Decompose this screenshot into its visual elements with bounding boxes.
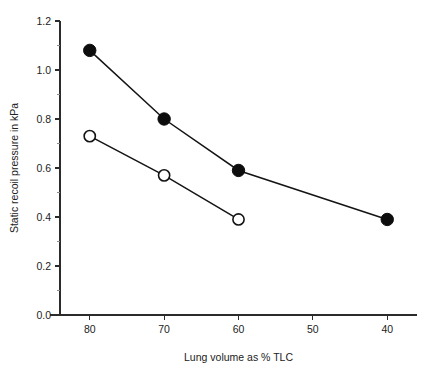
y-tick-label: 0.4: [36, 211, 51, 223]
x-tick-label: 70: [158, 323, 170, 335]
data-point-filled: [381, 213, 393, 225]
y-axis-title: Static recoil pressure in kPa: [8, 103, 20, 233]
y-tick-label: 0.0: [36, 309, 51, 321]
y-tick-label: 0.8: [36, 113, 51, 125]
chart-figure: 0.00.20.40.60.81.01.28070605040Lung volu…: [0, 0, 430, 386]
y-tick-label: 1.2: [36, 15, 51, 27]
series-line-filled-circles: [90, 50, 388, 219]
data-point-open: [233, 214, 244, 225]
data-point-filled: [158, 113, 170, 125]
data-point-open: [84, 131, 95, 142]
x-tick-label: 50: [307, 323, 319, 335]
data-point-filled: [84, 44, 96, 56]
chart-plot-area: 0.00.20.40.60.81.01.28070605040Lung volu…: [0, 0, 430, 386]
y-tick-label: 0.6: [36, 162, 51, 174]
x-tick-label: 40: [381, 323, 393, 335]
y-tick-label: 1.0: [36, 64, 51, 76]
x-axis-title: Lung volume as % TLC: [184, 351, 293, 363]
x-tick-label: 60: [233, 323, 245, 335]
y-tick-label: 0.2: [36, 260, 51, 272]
x-tick-label: 80: [84, 323, 96, 335]
data-point-filled: [232, 164, 244, 176]
data-point-open: [159, 170, 170, 181]
